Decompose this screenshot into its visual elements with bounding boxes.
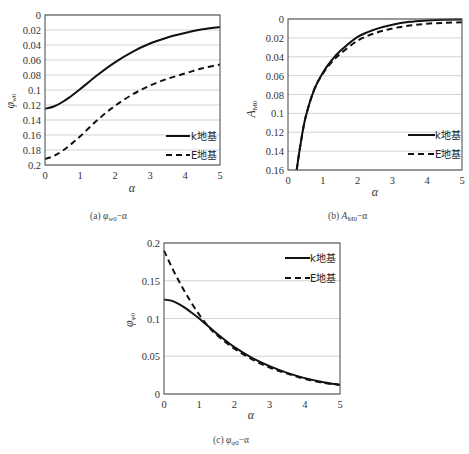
x-tick-label: 3: [267, 399, 272, 410]
y-tick-label: 0.1: [147, 314, 160, 325]
figure-canvas: 00.020.040.060.080.10.120.140.160.180.2 …: [0, 0, 469, 454]
x-tick-label: 3: [147, 170, 152, 181]
x-tick-label: 1: [77, 170, 82, 181]
series-k-line: [45, 27, 220, 109]
x-tick-label: 5: [459, 175, 464, 186]
chart-c-curves: [164, 251, 340, 385]
x-tick-label: 0: [161, 399, 166, 410]
x-tick-label: 4: [182, 170, 188, 181]
x-tick-label: 2: [232, 399, 237, 410]
chart-b-x-label: α: [372, 185, 379, 199]
x-tick-label: 0: [285, 175, 290, 186]
chart-c-y-label: φφ0: [122, 312, 137, 327]
y-tick-label: 0.05: [142, 351, 160, 362]
chart-a-y-label: φw0: [3, 93, 18, 109]
y-tick-label: 0.16: [266, 165, 284, 176]
chart-a-caption: (a) φw0−α: [90, 211, 127, 223]
chart-a: 00.020.040.060.080.10.120.140.160.180.2 …: [3, 10, 223, 223]
y-tick-label: 0.04: [23, 40, 42, 51]
chart-b-y-label: AM0: [244, 100, 259, 119]
y-tick-label: 0.16: [23, 130, 41, 141]
x-tick-label: 5: [337, 399, 342, 410]
x-tick-label: 2: [112, 170, 117, 181]
y-tick-label: 0.12: [266, 127, 284, 138]
chart-a-y-ticks: 00.020.040.060.080.10.120.140.160.180.2: [23, 10, 42, 171]
series-e-line: [45, 65, 220, 160]
y-tick-label: 0.02: [266, 33, 284, 44]
chart-b-legend: k地基 E地基: [408, 129, 461, 160]
y-tick-label: 0.18: [23, 145, 41, 156]
chart-a-x-ticks: 012345: [42, 170, 222, 181]
legend-k-label: k地基: [310, 252, 336, 264]
x-tick-label: 4: [302, 399, 308, 410]
y-tick-label: 0.08: [23, 70, 41, 81]
series-k-line: [164, 300, 340, 385]
legend-e-label: E地基: [310, 272, 336, 284]
y-tick-label: 0.2: [147, 238, 160, 249]
x-tick-label: 1: [197, 399, 202, 410]
x-tick-label: 3: [390, 175, 395, 186]
y-tick-label: 0.02: [23, 25, 41, 36]
y-tick-label: 0.14: [23, 115, 42, 126]
legend-e-label: E地基: [191, 149, 217, 161]
y-tick-label: 0.2: [28, 160, 41, 171]
y-tick-label: 0.1: [28, 85, 41, 96]
chart-c-y-ticks: 00.050.10.150.2: [142, 238, 160, 400]
y-tick-label: 0: [155, 389, 160, 400]
y-tick-label: 0.06: [23, 55, 41, 66]
x-tick-label: 0: [42, 170, 47, 181]
chart-c-x-label: α: [248, 408, 255, 422]
chart-b: 00.020.040.060.080.10.120.140.16 012345 …: [244, 14, 465, 223]
y-tick-label: 0.14: [266, 146, 285, 157]
y-tick-label: 0: [36, 10, 41, 21]
y-tick-label: 0.12: [23, 100, 41, 111]
x-tick-label: 2: [355, 175, 360, 186]
chart-a-gridlines: [45, 15, 220, 165]
x-tick-label: 5: [217, 170, 222, 181]
chart-b-caption: (b) AM0−α: [328, 211, 367, 223]
legend-e-label: E地基: [435, 148, 461, 160]
chart-b-y-ticks: 00.020.040.060.080.10.120.140.16: [266, 14, 285, 176]
chart-a-x-label: α: [129, 181, 136, 195]
y-tick-label: 0.1: [271, 108, 284, 119]
chart-c-legend: k地基 E地基: [285, 252, 336, 284]
series-e-line: [297, 22, 462, 170]
x-tick-label: 1: [320, 175, 325, 186]
y-tick-label: 0.06: [266, 71, 284, 82]
chart-c: 00.050.10.150.2 012345 α φφ0 k地基 E地基 (c)…: [122, 238, 343, 447]
chart-b-gridlines: [288, 19, 462, 170]
legend-k-label: k地基: [435, 129, 461, 141]
y-tick-label: 0.15: [142, 276, 160, 287]
chart-c-caption: (c) φφ0−α: [213, 435, 249, 447]
y-tick-label: 0: [279, 14, 284, 25]
y-tick-label: 0.08: [266, 90, 284, 101]
chart-c-gridlines: [164, 243, 340, 394]
x-tick-label: 4: [425, 175, 431, 186]
legend-k-label: k地基: [191, 130, 217, 142]
y-tick-label: 0.04: [266, 52, 285, 63]
series-e-line: [164, 251, 340, 385]
